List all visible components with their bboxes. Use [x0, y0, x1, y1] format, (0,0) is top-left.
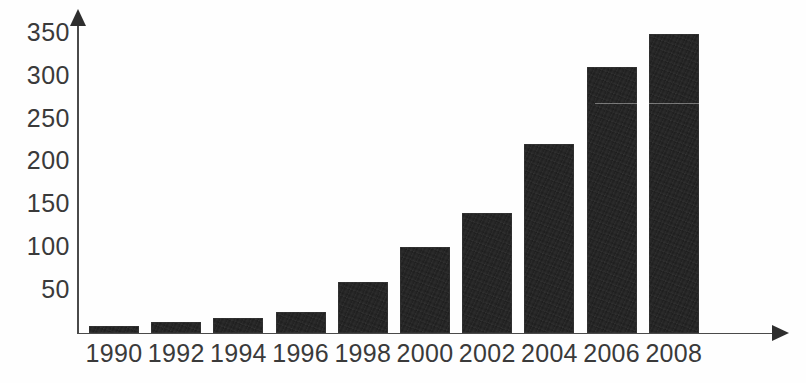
- bar: [213, 318, 263, 333]
- bar: [462, 213, 512, 333]
- plot-area: 50100150200250300350 1990199219941996199…: [0, 0, 806, 383]
- bar: [338, 282, 388, 333]
- bar: [524, 144, 574, 333]
- bar-chart: 50100150200250300350 1990199219941996199…: [0, 0, 806, 383]
- x-axis-tick-labels: 1990199219941996199820002002200420062008: [0, 340, 806, 380]
- x-tick-label: 2008: [631, 340, 717, 366]
- bar: [649, 34, 699, 333]
- bar: [587, 67, 637, 333]
- bars-layer: [0, 0, 806, 383]
- bar: [89, 326, 139, 333]
- bar: [276, 312, 326, 333]
- bar: [151, 322, 201, 333]
- bar: [400, 247, 450, 333]
